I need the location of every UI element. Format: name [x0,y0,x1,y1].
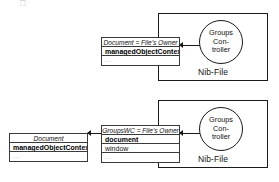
object-box-more-rows: ... [102,56,179,64]
object-box-attribute-managedobjectcontext: managedObjectContext [102,47,179,56]
object-box-groupswc-fileowner: GroupsWC = File's Owner document window … [101,125,180,163]
connector-controller-to-groupswc [180,133,200,134]
object-box-attribute-window: window [102,144,179,153]
object-box-more-rows: ... [10,152,87,160]
diagram-canvas: □ Nib-File Groups Con- troller Document … [0,0,279,182]
object-box-document-fileowner: Document = File's Owner managedObjectCon… [101,37,180,66]
arrowhead-to-groupswc [179,130,183,136]
nib-frame-left-edge-upper-bottom [158,100,159,125]
connector-controller-to-document-top [180,45,200,46]
object-box-attribute-managedobjectcontext: managedObjectContext [10,143,87,152]
arrowhead-to-document-left [87,130,91,136]
arrowhead-to-document-top [179,42,183,48]
object-box-more-rows: ... [102,153,179,161]
object-box-document: Document managedObjectContext ... [9,133,88,162]
nib-frame-left-edge-upper [158,13,159,37]
object-box-title: GroupsWC = File's Owner [102,126,179,135]
object-box-title: Document = File's Owner [102,38,179,47]
controller-line-3: troller [212,133,230,142]
object-box-title: Document [10,134,87,143]
nib-file-label-top: Nib-File [159,67,267,77]
page-artifact-glyph: □ [20,0,29,7]
groups-controller-bottom: Groups Con- troller [199,107,243,151]
nib-frame-left-edge-lower-bottom [158,163,159,168]
object-box-attribute-document: document [102,135,179,144]
controller-line-3: troller [212,46,230,55]
nib-frame-left-edge-lower [158,66,159,81]
groups-controller-top: Groups Con- troller [199,20,243,64]
